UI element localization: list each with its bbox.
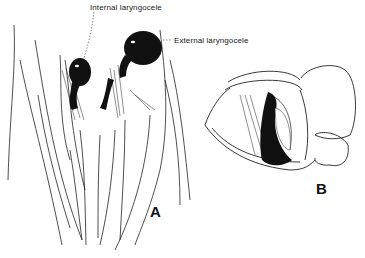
internal-laryngocele-sac [69,58,91,86]
panel-label-a: A [150,203,161,220]
internal-laryngocele-label: Internal laryngocele [90,3,162,12]
panel-label-b: B [316,180,327,197]
external-laryngocele-label: External laryngocele [174,36,248,45]
panel-a-drawing [8,25,190,250]
